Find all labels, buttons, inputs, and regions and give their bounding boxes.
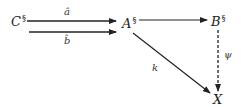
node-x: X — [213, 93, 222, 106]
edge-label-a-hat: â — [64, 7, 70, 17]
node-a-label: A — [122, 16, 131, 31]
node-a-superscript: § — [132, 15, 136, 24]
diagram-canvas — [0, 0, 241, 107]
node-b-superscript: § — [222, 13, 226, 22]
node-x-label: X — [213, 92, 222, 107]
node-c-label: C — [11, 14, 21, 29]
node-b: B§ — [211, 14, 226, 28]
node-a: A§ — [122, 16, 136, 30]
node-c: C§ — [11, 14, 26, 28]
edge-label-k: k — [152, 63, 158, 73]
edge-label-b-hat: b̂ — [64, 36, 70, 46]
arrow-a-to-x — [133, 33, 210, 93]
node-b-label: B — [211, 14, 221, 29]
node-c-superscript: § — [22, 13, 26, 22]
edge-label-psi: ψ — [224, 50, 232, 60]
